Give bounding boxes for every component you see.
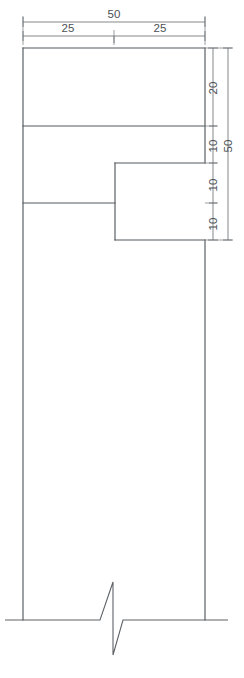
drawing-svg: 50 25 25 [0,0,244,678]
vertical-dimension-group: 20 10 10 10 50 [205,48,234,240]
part-outline-group [23,48,205,620]
dim-label-v-10-a: 10 [207,139,219,152]
dim-label-v-10-c: 10 [207,217,219,230]
dim-label-overall-width: 50 [107,8,120,20]
dim-label-segment-right: 25 [153,22,166,34]
dim-label-vertical-overall: 50 [222,139,234,152]
zigzag-break-icon [5,582,228,655]
dim-label-v-20: 20 [207,81,219,94]
break-line-group [5,582,228,655]
technical-drawing-canvas: 50 25 25 [0,0,244,678]
dim-label-v-10-b: 10 [207,178,219,191]
horizontal-dimension-group: 50 25 25 [23,8,205,45]
dim-label-segment-left: 25 [61,22,74,34]
